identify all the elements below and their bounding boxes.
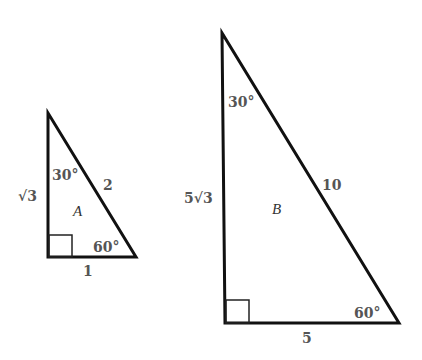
triangle-b-label: B: [272, 201, 281, 217]
triangle-a: 30° 60° √3 2 1 A: [18, 113, 136, 279]
similar-triangles-diagram: 30° 60° √3 2 1 A 30° 60° 5√3 10 5 B: [0, 0, 422, 360]
diagram-svg: 30° 60° √3 2 1 A 30° 60° 5√3 10 5 B: [0, 0, 422, 360]
triangle-b: 30° 60° 5√3 10 5 B: [184, 33, 399, 346]
triangle-b-side-base: 5: [302, 330, 312, 346]
triangle-a-right-angle-marker: [49, 235, 72, 257]
triangle-a-side-vertical: √3: [18, 188, 37, 204]
triangle-b-right-angle-marker: [226, 300, 249, 323]
triangle-b-side-vertical: 5√3: [184, 190, 213, 206]
triangle-b-shape: [222, 33, 399, 323]
triangle-a-angle-bottom: 60°: [93, 239, 119, 255]
triangle-a-side-base: 1: [83, 263, 93, 279]
triangle-a-label: A: [72, 203, 83, 219]
triangle-a-side-hypotenuse: 2: [103, 177, 113, 193]
triangle-b-angle-bottom: 60°: [354, 305, 380, 321]
triangle-b-side-hypotenuse: 10: [322, 177, 342, 193]
triangle-a-angle-top: 30°: [52, 167, 78, 183]
triangle-b-angle-top: 30°: [228, 94, 254, 110]
